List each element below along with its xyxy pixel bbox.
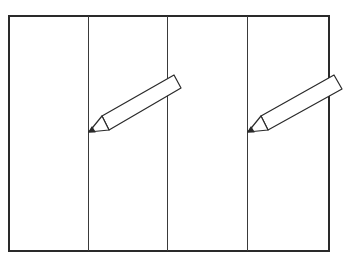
outer-frame <box>9 16 329 251</box>
diagram-canvas <box>0 0 346 269</box>
